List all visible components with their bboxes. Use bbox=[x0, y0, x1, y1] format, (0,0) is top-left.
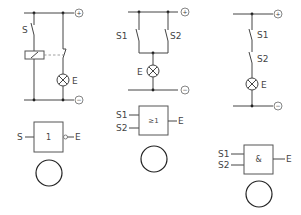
output-indicator bbox=[141, 146, 167, 172]
circuit-and: + S1 S2 E − S1 S2 & E bbox=[218, 10, 292, 207]
output-indicator bbox=[246, 181, 272, 207]
lamp-label: E bbox=[72, 76, 78, 86]
gate-output-label: E bbox=[178, 116, 184, 126]
switch-s2 bbox=[249, 52, 252, 63]
gate-output-label: E bbox=[75, 132, 81, 142]
lamp-icon bbox=[147, 65, 159, 77]
negation-bubble bbox=[64, 135, 68, 139]
switch-label: S2 bbox=[170, 31, 181, 41]
switch-label: S bbox=[22, 25, 28, 35]
minus-sign: − bbox=[76, 96, 81, 103]
plus-sign: + bbox=[275, 10, 280, 17]
lamp-label: E bbox=[137, 67, 143, 77]
plus-sign: + bbox=[76, 9, 81, 16]
gate-output-label: E bbox=[286, 154, 292, 164]
gate-input-label: S2 bbox=[116, 123, 127, 133]
logic-circuits-diagram: + S E − S 1 bbox=[0, 0, 301, 215]
gate-input-label: S1 bbox=[218, 149, 229, 159]
circuit-not: + S E − S 1 bbox=[17, 9, 83, 186]
gate-symbol: 1 bbox=[46, 133, 51, 142]
gate-input-label: S2 bbox=[218, 160, 229, 170]
switch-s2 bbox=[165, 29, 168, 41]
gate-symbol: & bbox=[255, 155, 261, 164]
switch-label: S1 bbox=[116, 31, 127, 41]
minus-sign: − bbox=[182, 86, 187, 93]
circuit-or: + S1 S2 E − S1 S2 ≥1 E bbox=[116, 8, 189, 172]
switch-s1 bbox=[249, 29, 252, 40]
lamp-label: E bbox=[261, 80, 267, 90]
lamp-icon bbox=[246, 78, 258, 90]
gate-input-label: S1 bbox=[116, 110, 127, 120]
output-indicator bbox=[36, 160, 62, 186]
minus-sign: − bbox=[275, 102, 280, 109]
relay-contact-nc bbox=[63, 49, 66, 58]
plus-sign: + bbox=[182, 8, 187, 15]
switch-label: S1 bbox=[257, 30, 268, 40]
switch-s1 bbox=[136, 29, 139, 41]
gate-symbol: ≥1 bbox=[148, 117, 158, 125]
gate-input-label: S bbox=[17, 132, 23, 142]
lamp-icon bbox=[57, 74, 69, 86]
switch-label: S2 bbox=[257, 54, 268, 64]
